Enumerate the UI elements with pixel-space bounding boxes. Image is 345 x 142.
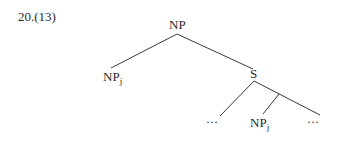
- node-label: NP: [169, 17, 186, 32]
- node-subscript: j: [267, 122, 270, 132]
- edge-s-to-right-ellipsis: [254, 81, 320, 115]
- node-label: NP: [103, 69, 120, 84]
- node-root-np: NP: [169, 18, 186, 31]
- node-label: S: [250, 66, 257, 81]
- edge-np-to-npj: [111, 34, 177, 68]
- edge-np-to-s: [177, 34, 253, 69]
- edge-s-to-left-ellipsis: [220, 81, 254, 116]
- node-label: NP: [250, 115, 267, 130]
- node-subscript: j: [120, 76, 123, 86]
- node-right-ellipsis: …: [307, 113, 320, 125]
- node-s: S: [250, 67, 257, 80]
- node-npj-left: NPj: [103, 70, 122, 86]
- node-left-ellipsis: …: [206, 113, 219, 125]
- node-npj-embedded: NPj: [250, 116, 269, 132]
- edge-to-embedded-npj: [263, 94, 279, 114]
